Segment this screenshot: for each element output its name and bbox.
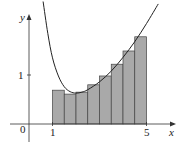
y-axis-arrow-icon <box>27 14 32 20</box>
bar <box>135 37 147 124</box>
x-tick-5-label: 5 <box>144 126 150 138</box>
x-axis-label: x <box>168 126 174 138</box>
y-tick-1-label: 1 <box>18 69 24 81</box>
bar <box>123 51 135 124</box>
bars <box>53 37 147 124</box>
bar <box>64 94 76 124</box>
bar <box>100 76 112 124</box>
bar <box>111 64 123 124</box>
x-tick-1-label: 1 <box>50 126 56 138</box>
bar <box>53 90 65 124</box>
y-axis-label: y <box>19 11 25 23</box>
bar <box>76 92 88 124</box>
riemann-sum-chart: 0 1 5 x 1 y <box>0 0 181 151</box>
bar <box>88 85 100 124</box>
origin-label: 0 <box>20 123 26 135</box>
